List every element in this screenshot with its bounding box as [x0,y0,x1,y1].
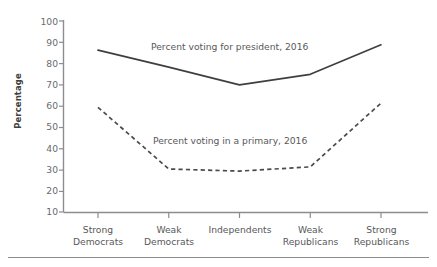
x-tick-label-strong-republicans: Strong Republicans [337,224,426,247]
footer-divider [8,257,429,258]
x-tick-label-line2: Republicans [337,236,426,248]
series-annotation-president: Percent voting for president, 2016 [148,41,311,52]
x-tick-label-line1: Strong [58,224,138,236]
x-tick-label-line1: Strong [337,224,426,236]
x-tick-label-line2: Democrats [129,236,209,248]
x-tick-label-line2: Democrats [58,236,138,248]
figure-container: Percentage 100 90 80 70 60 50 40 30 20 1… [0,0,437,267]
x-tick-label-strong-democrats: Strong Democrats [58,224,138,247]
series-annotation-primary: Percent voting in a primary, 2016 [150,135,310,146]
x-tick-marks [98,213,381,219]
